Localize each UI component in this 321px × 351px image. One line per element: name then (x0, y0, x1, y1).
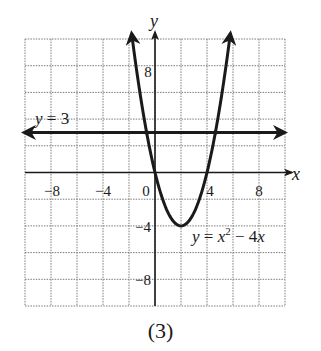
y-axis-label: y (148, 11, 158, 31)
parabola-label: y = x2 − 4x (190, 225, 265, 246)
x-axis-label: x (291, 164, 300, 184)
x-tick-8: 8 (255, 183, 263, 199)
y-tick-8: 8 (144, 64, 152, 80)
y-tick-neg8: −8 (135, 272, 151, 288)
y-tick-neg4: −4 (135, 219, 151, 235)
x-tick-4: 4 (206, 183, 214, 199)
line-label-y-equals-3: y = 3 (33, 109, 69, 128)
intersection-point-right (213, 130, 217, 134)
intersection-point-left (144, 130, 148, 134)
graph: y x −8 −4 0 4 8 8 −4 −8 y = 3 y = x2 − 4… (0, 0, 321, 351)
x-tick-neg4: −4 (95, 183, 111, 199)
figure-caption: (3) (0, 318, 321, 344)
x-tick-0: 0 (142, 183, 150, 199)
x-tick-neg8: −8 (44, 183, 60, 199)
